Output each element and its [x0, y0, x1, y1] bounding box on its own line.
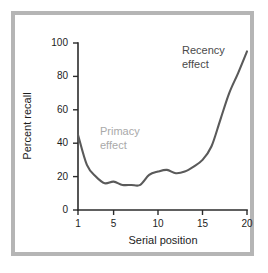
- y-axis-title: Percent recall: [21, 92, 33, 159]
- y-tick-label-0: 0: [50, 205, 68, 215]
- x-tick-label-10: 10: [152, 219, 163, 229]
- x-tick-label-1: 1: [75, 219, 81, 229]
- y-tick-label-60: 60: [50, 105, 68, 115]
- x-tick-label-5: 5: [111, 219, 117, 229]
- x-axis-title: Serial position: [128, 234, 197, 246]
- y-tick-label-40: 40: [50, 138, 68, 148]
- recency-effect-annotation: Recency effect: [182, 44, 225, 72]
- serial-position-figure: 0 20 40 60 80 100 1 5 10 15 20 Percent r…: [0, 0, 268, 273]
- x-tick-label-20: 20: [241, 219, 252, 229]
- primacy-effect-annotation: Primacy effect: [100, 125, 140, 153]
- y-tick-label-80: 80: [50, 71, 68, 81]
- x-tick-label-15: 15: [197, 219, 208, 229]
- y-tick-label-20: 20: [50, 172, 68, 182]
- y-tick-label-100: 100: [44, 38, 68, 48]
